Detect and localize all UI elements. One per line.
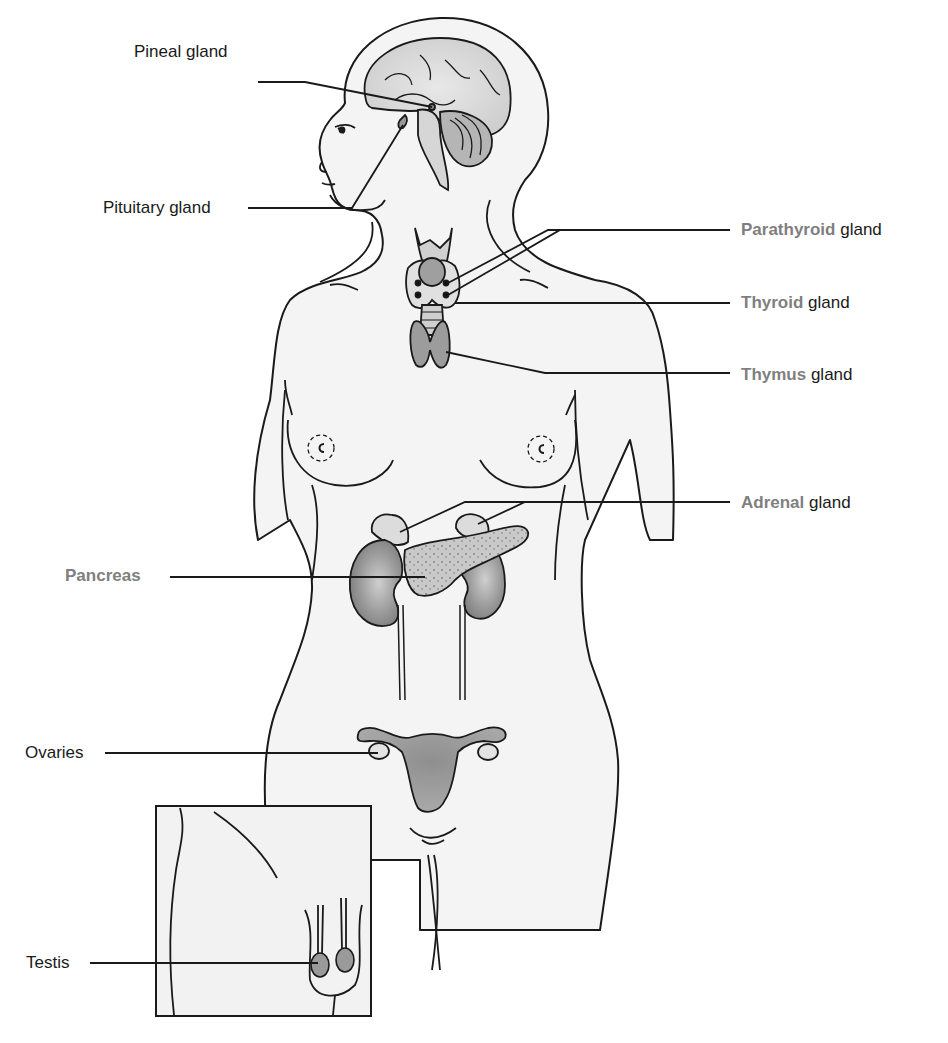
label-pineal-gland: Pineal gland bbox=[134, 42, 228, 62]
testis-right bbox=[336, 948, 354, 972]
label-testis: Testis bbox=[26, 953, 69, 973]
endocrine-system-illustration bbox=[0, 0, 948, 1043]
label-ovaries: Ovaries bbox=[25, 743, 84, 763]
label-parathyroid-gland: Parathyroid gland bbox=[741, 220, 882, 240]
cricoid bbox=[419, 258, 445, 286]
testis-left bbox=[311, 953, 329, 977]
label-adrenal-gland: Adrenal gland bbox=[741, 493, 851, 513]
inset-testis-panel bbox=[156, 806, 371, 1016]
label-pituitary-gland: Pituitary gland bbox=[103, 198, 211, 218]
ovary-right bbox=[478, 744, 498, 760]
ovary-left bbox=[369, 743, 389, 759]
label-thyroid-gland: Thyroid gland bbox=[741, 293, 850, 313]
label-thymus-gland: Thymus gland bbox=[741, 365, 853, 385]
label-pancreas: Pancreas bbox=[65, 566, 141, 586]
